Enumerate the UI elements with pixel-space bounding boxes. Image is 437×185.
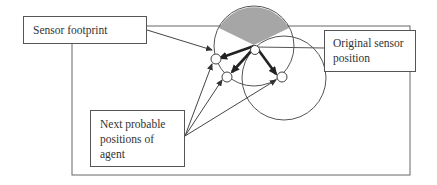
sensor-sector [219, 7, 289, 45]
original-position-leader [256, 47, 324, 48]
next-position-marker-2 [222, 72, 232, 82]
next-position-marker-1 [211, 54, 221, 64]
next-positions-label-line1: Next probable [100, 117, 184, 132]
original-sensor-position-marker [251, 46, 260, 55]
next-positions-label-box: Next probable positions of agent [90, 110, 185, 167]
original-sensor-position-label-line1: Original sensor [333, 36, 415, 51]
next-positions-label-line3: agent [100, 147, 184, 162]
next-positions-label-line2: positions of [100, 132, 184, 147]
original-sensor-position-label-line2: position [333, 51, 415, 66]
next-pointer-1 [185, 64, 212, 136]
next-position-marker-3 [277, 72, 287, 82]
next-pointer-2 [185, 80, 222, 136]
original-sensor-position-label-box: Original sensor position [324, 30, 416, 72]
move-arrow-right [257, 48, 276, 74]
sensor-footprint-label: Sensor footprint [33, 24, 107, 36]
footprint-pointer-arrow [147, 30, 212, 50]
sensor-footprint-label-box: Sensor footprint [23, 16, 147, 44]
next-pointer-3 [185, 80, 276, 136]
